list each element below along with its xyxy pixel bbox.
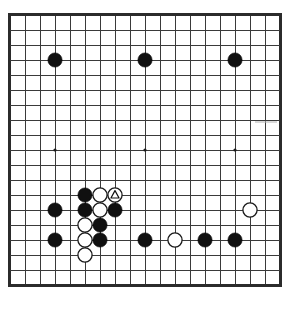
stone-black-Q16[interactable] xyxy=(228,53,242,67)
stone-black-Q4[interactable] xyxy=(228,233,242,247)
stone-white-icon[interactable] xyxy=(78,248,92,262)
stone-white-G6[interactable] xyxy=(93,203,107,217)
scan-smudge-right xyxy=(255,121,277,123)
go-board[interactable] xyxy=(0,0,291,311)
stone-black-icon[interactable] xyxy=(48,203,62,217)
stone-black-D6[interactable] xyxy=(48,203,62,217)
stone-white-icon[interactable] xyxy=(93,203,107,217)
stone-black-D4[interactable] xyxy=(48,233,62,247)
stone-black-H6[interactable] xyxy=(108,203,122,217)
go-board-canvas[interactable] xyxy=(0,0,291,311)
stone-black-icon[interactable] xyxy=(93,218,107,232)
stone-black-O4[interactable] xyxy=(198,233,212,247)
star-point-left-center-icon xyxy=(53,148,56,151)
stone-white-F5[interactable] xyxy=(78,218,92,232)
stone-black-icon[interactable] xyxy=(138,233,152,247)
star-point-right-center-icon xyxy=(233,148,236,151)
stone-black-K4[interactable] xyxy=(138,233,152,247)
stone-white-icon[interactable] xyxy=(93,188,107,202)
stone-white-R6[interactable] xyxy=(243,203,257,217)
stone-white-icon[interactable] xyxy=(168,233,182,247)
stone-black-icon[interactable] xyxy=(228,233,242,247)
stone-black-icon[interactable] xyxy=(108,203,122,217)
stone-black-icon[interactable] xyxy=(78,203,92,217)
stones-group[interactable] xyxy=(48,53,257,262)
star-point-tengen-icon xyxy=(143,148,146,151)
stone-black-icon[interactable] xyxy=(48,233,62,247)
stone-black-icon[interactable] xyxy=(138,53,152,67)
stone-white-icon[interactable] xyxy=(243,203,257,217)
stone-black-icon[interactable] xyxy=(48,53,62,67)
stone-white-G7[interactable] xyxy=(93,188,107,202)
stone-black-icon[interactable] xyxy=(228,53,242,67)
stone-white-icon[interactable] xyxy=(78,218,92,232)
stone-black-F7[interactable] xyxy=(78,188,92,202)
stone-black-F6[interactable] xyxy=(78,203,92,217)
go-diagram-root xyxy=(0,0,291,311)
stone-white-F3[interactable] xyxy=(78,248,92,262)
stone-black-icon[interactable] xyxy=(93,233,107,247)
stone-black-G4[interactable] xyxy=(93,233,107,247)
stone-white-icon[interactable] xyxy=(78,233,92,247)
stone-black-K16[interactable] xyxy=(138,53,152,67)
stone-black-icon[interactable] xyxy=(78,188,92,202)
stone-black-G5[interactable] xyxy=(93,218,107,232)
stone-white-H7[interactable] xyxy=(108,188,122,202)
stone-black-icon[interactable] xyxy=(198,233,212,247)
stone-white-M4[interactable] xyxy=(168,233,182,247)
stone-black-D16[interactable] xyxy=(48,53,62,67)
stone-white-F4[interactable] xyxy=(78,233,92,247)
